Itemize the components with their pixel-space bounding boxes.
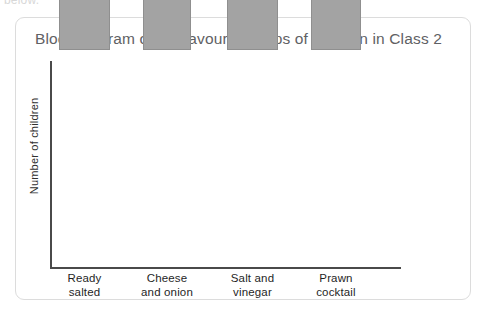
block — [228, 0, 277, 18]
x-axis-line — [50, 267, 401, 269]
bar-salt-and-vinegar — [227, 0, 278, 50]
x-axis-label-line: salted — [49, 286, 120, 300]
y-axis-line — [50, 61, 52, 269]
x-axis-label-line: and onion — [126, 286, 208, 300]
block — [228, 18, 277, 49]
block-diagram-plot: Number of children — [16, 18, 472, 301]
x-axis-label-line: Salt and — [214, 272, 291, 286]
block — [312, 0, 360, 18]
x-axis-label-prawn-cocktail: Prawn cocktail — [299, 272, 373, 299]
block — [312, 18, 360, 49]
block — [60, 19, 109, 49]
bar-cheese-and-onion — [143, 0, 191, 50]
block — [60, 0, 109, 19]
x-axis-label-cheese-and-onion: Cheese and onion — [126, 272, 208, 299]
x-axis-label-line: cocktail — [299, 286, 373, 300]
x-axis-label-line: vinegar — [214, 286, 291, 300]
x-axis-label-ready-salted: Ready salted — [49, 272, 120, 299]
x-axis-label-line: Ready — [49, 272, 120, 286]
block — [144, 20, 190, 49]
bar-ready-salted — [59, 0, 110, 50]
y-axis-label: Number of children — [28, 81, 40, 211]
bar-prawn-cocktail — [311, 0, 361, 50]
block — [144, 0, 190, 20]
cut-off-text-above-card: below. — [4, 0, 39, 4]
x-axis-label-line: Cheese — [126, 272, 208, 286]
chart-card: Block diagram of the favourite crisps of… — [15, 17, 471, 300]
x-axis-label-line: Prawn — [299, 272, 373, 286]
x-axis-label-salt-and-vinegar: Salt and vinegar — [214, 272, 291, 299]
